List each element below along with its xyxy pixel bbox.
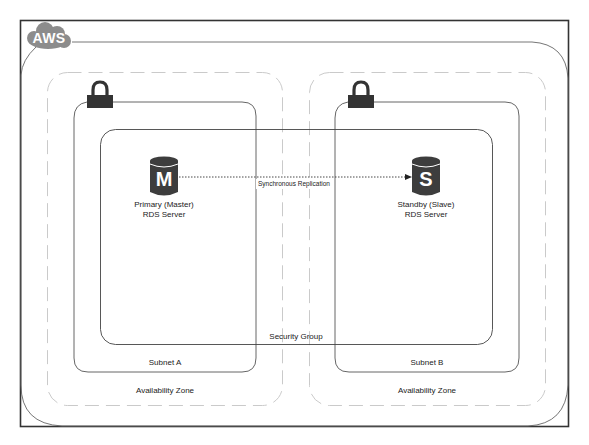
subnet-a-label: Subnet A (115, 358, 215, 368)
security-group-label: Security Group (246, 332, 346, 342)
replication-label: Synchronous Replication (256, 179, 332, 189)
primary-server-name: Primary (Master) (114, 200, 214, 210)
availability-zone-a-label: Availability Zone (115, 386, 215, 396)
master-letter: M (150, 168, 178, 191)
standby-server-type: RDS Server (376, 210, 476, 220)
slave-letter: S (412, 168, 440, 191)
standby-server-label: Standby (Slave) RDS Server (376, 200, 476, 220)
primary-server-type: RDS Server (114, 210, 214, 220)
subnet-b-label: Subnet B (377, 358, 477, 368)
availability-zone-b-label: Availability Zone (377, 386, 477, 396)
primary-server-label: Primary (Master) RDS Server (114, 200, 214, 220)
standby-server-name: Standby (Slave) (376, 200, 476, 210)
aws-label: AWS (28, 30, 70, 46)
